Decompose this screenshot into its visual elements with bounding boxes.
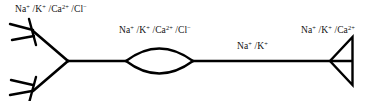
dendrite-upper-group xyxy=(10,19,68,61)
ion-k: K+ xyxy=(139,25,150,35)
dendrite-lower-tip-prong-upper xyxy=(11,80,33,85)
ion-cl: Cl− xyxy=(178,25,191,35)
ion-charge: 2+ xyxy=(62,3,69,10)
label-dendritic-ions: Na+ /K+ /Ca2+ /Cl− xyxy=(15,4,87,15)
ion-ca: Ca2+ xyxy=(155,25,173,35)
ion-cl: Cl− xyxy=(74,4,87,14)
ion-charge: − xyxy=(187,24,191,31)
dendrite-lower-tip-prong-lower xyxy=(10,91,32,95)
ion-charge: 2+ xyxy=(166,24,173,31)
dendrite-lower-branch xyxy=(33,61,68,91)
ion-k: K+ xyxy=(35,4,46,14)
dendrite-lower-group xyxy=(10,61,68,101)
ion-ca: Ca2+ xyxy=(337,25,355,35)
ion-na: Na+ xyxy=(237,41,252,51)
soma-lens xyxy=(126,49,193,74)
dendrite-upper-branch xyxy=(33,31,68,61)
label-axon-ions: Na+ /K+ xyxy=(237,41,268,52)
ion-na: Na+ xyxy=(119,25,134,35)
dendrite-upper-tip-prong-lower xyxy=(12,36,34,40)
ion-na: Na+ xyxy=(301,25,316,35)
ion-k: K+ xyxy=(257,41,268,51)
ion-charge: 2+ xyxy=(348,24,355,31)
soma-lens-lower-arc xyxy=(126,61,193,74)
neuron-ion-permeability-figure: Na+ /K+ /Ca2+ /Cl− Na+ /K+ /Ca2+ /Cl− Na… xyxy=(0,0,376,101)
soma-lens-upper-arc xyxy=(126,49,193,62)
label-soma-ions: Na+ /K+ /Ca2+ /Cl− xyxy=(119,25,191,36)
neuron-diagram xyxy=(0,0,376,101)
ion-charge: + xyxy=(264,40,268,47)
label-terminal-ions: Na+ /K+ /Ca2+ xyxy=(301,25,355,36)
ion-na: Na+ xyxy=(15,4,30,14)
ion-ca: Ca2+ xyxy=(51,4,69,14)
ion-charge: − xyxy=(83,3,87,10)
ion-k: K+ xyxy=(321,25,332,35)
